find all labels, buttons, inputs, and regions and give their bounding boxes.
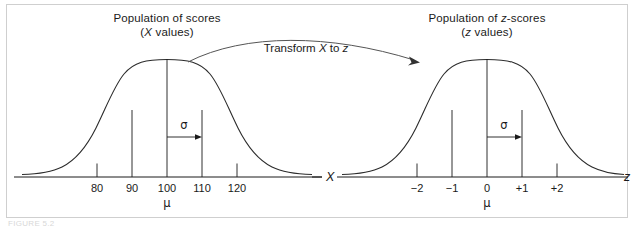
figure-caption-fragment: FIGURE 5.2 [8, 219, 55, 226]
left-title-values-text: values) [152, 26, 193, 38]
right-normal-curve [342, 60, 624, 175]
right-tick-label-pos2: +2 [551, 182, 564, 194]
right-title-values-text: values) [471, 26, 512, 38]
right-sigma-label: σ [500, 118, 507, 132]
transform-arrowhead [408, 57, 420, 66]
right-mean-symbol: μ [483, 196, 490, 210]
left-tick-label-100: 100 [158, 182, 176, 194]
right-distribution-panel [337, 60, 628, 178]
left-panel-title: Population of scores (X values) [113, 11, 220, 40]
right-title-suffix: -scores [507, 12, 546, 24]
figure-container: Population of scores (X values) Populati… [0, 0, 638, 226]
left-distribution-panel [14, 60, 322, 178]
left-mean-symbol: μ [163, 196, 170, 210]
right-panel-title: Population of z-scores (z values) [428, 11, 545, 40]
transform-text-prefix: Transform [264, 42, 319, 54]
left-sigma-arrowhead [195, 134, 202, 140]
left-axis-label: X [326, 170, 334, 184]
transform-annotation-label: Transform X to z [264, 42, 349, 54]
transform-variable-z: z [343, 42, 349, 54]
left-title-variable: X [144, 26, 152, 38]
left-tick-label-120: 120 [228, 182, 246, 194]
right-tick-label-zero: 0 [484, 182, 490, 194]
left-panel-title-line1: Population of scores [113, 11, 220, 25]
right-tick-label-neg1: −1 [446, 182, 459, 194]
left-tick-label-80: 80 [91, 182, 103, 194]
right-tick-label-neg2: −2 [411, 182, 424, 194]
right-panel-title-line1: Population of z-scores [428, 11, 545, 25]
transform-text-middle: to [327, 42, 343, 54]
right-sigma-arrowhead [515, 134, 522, 140]
right-panel-title-line2: (z values) [428, 25, 545, 39]
left-tick-label-110: 110 [193, 182, 211, 194]
left-tick-label-90: 90 [126, 182, 138, 194]
left-sigma-label: σ [180, 118, 187, 132]
right-axis-label: z [624, 170, 630, 184]
right-title-prefix: Population of [428, 12, 500, 24]
right-tick-label-pos1: +1 [516, 182, 529, 194]
left-panel-title-line2: (X values) [113, 25, 220, 39]
transform-variable-x: X [319, 42, 327, 54]
